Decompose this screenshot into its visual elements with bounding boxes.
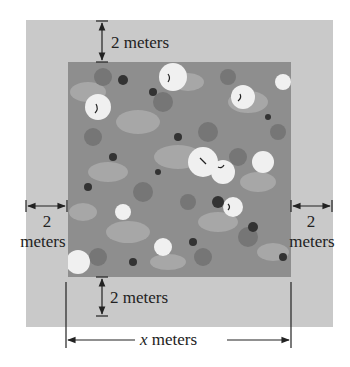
total-width-label: x meters bbox=[140, 331, 197, 349]
total-width-unit: meters bbox=[152, 330, 197, 349]
bottom-border-label: 2 meters bbox=[110, 289, 168, 307]
right-border-unit: meters bbox=[283, 233, 341, 251]
left-border-number: 2 bbox=[18, 213, 76, 231]
dimension-lines bbox=[0, 0, 350, 367]
top-border-label: 2 meters bbox=[111, 34, 169, 52]
total-width-variable: x bbox=[140, 330, 148, 349]
left-border-unit: meters bbox=[14, 233, 72, 251]
right-border-number: 2 bbox=[282, 213, 340, 231]
